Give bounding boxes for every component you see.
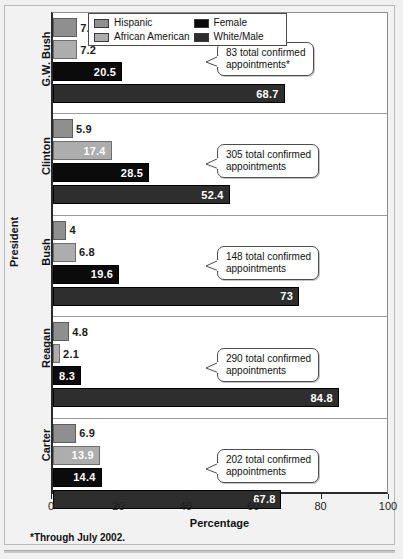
bar-value-label: 28.5 xyxy=(121,167,148,179)
legend-swatch-female xyxy=(194,19,209,28)
legend-label-hispanic: Hispanic xyxy=(114,18,152,28)
bar-african-american[interactable]: 13.9 xyxy=(53,446,100,465)
y-axis-category-g-w-bush: G.W. Bush xyxy=(40,11,52,107)
callout-line-2: appointments xyxy=(226,365,311,377)
legend-item-white-male: White/Male xyxy=(194,31,281,43)
x-axis-tick xyxy=(51,494,52,499)
bar-value-label: 14.4 xyxy=(73,471,100,483)
bar-hispanic[interactable]: 5.9 xyxy=(53,119,73,138)
bar-african-american[interactable]: 2.1 xyxy=(53,344,60,363)
legend-label-female: Female xyxy=(214,18,247,28)
bar-white-male[interactable]: 84.8 xyxy=(53,388,339,407)
bar-value-label: 68.7 xyxy=(256,88,283,100)
bar-female[interactable]: 19.6 xyxy=(53,265,119,284)
x-axis-tick-label: 80 xyxy=(314,500,326,512)
figure-bottom-rule xyxy=(4,550,395,553)
bar-row: 5.9 xyxy=(53,119,387,138)
legend-swatch-african-american xyxy=(94,33,109,42)
bar-african-american[interactable]: 6.8 xyxy=(53,243,76,262)
bar-female[interactable]: 14.4 xyxy=(53,468,102,487)
callout-line-1: 202 total confirmed xyxy=(226,454,311,466)
legend-swatch-white-male xyxy=(194,33,209,42)
callout-line-1: 148 total confirmed xyxy=(226,251,311,263)
bar-value-label: 6.8 xyxy=(75,246,95,258)
bar-female[interactable]: 20.5 xyxy=(53,62,122,81)
bar-row: 68.7 xyxy=(53,84,387,103)
x-axis-tick-label: 40 xyxy=(180,500,192,512)
bar-white-male[interactable]: 68.7 xyxy=(53,84,285,103)
x-axis-tick-label: 0 xyxy=(48,500,54,512)
y-axis-category-reagan: Reagan xyxy=(40,300,52,396)
callout-reagan: 290 total confirmedappointments xyxy=(217,348,319,382)
x-axis-tick-label: 60 xyxy=(247,500,259,512)
callout-line-1: 305 total confirmed xyxy=(226,149,311,161)
callout-clinton: 305 total confirmedappointments xyxy=(217,144,319,178)
bar-row: 84.8 xyxy=(53,388,387,407)
legend-item-female: Female xyxy=(194,17,281,29)
callout-line-2: appointments xyxy=(226,161,311,173)
bar-african-american[interactable]: 17.4 xyxy=(53,141,112,160)
bar-value-label: 84.8 xyxy=(311,392,338,404)
callout-line-1: 83 total confirmed xyxy=(226,47,306,59)
y-axis-category-clinton: Clinton xyxy=(40,108,52,204)
x-axis-tick xyxy=(253,494,254,499)
plot-area: 7.27.220.568.783 total confirmedappointm… xyxy=(51,12,388,494)
bar-row: 4 xyxy=(53,221,387,240)
x-axis-tick xyxy=(388,494,389,499)
legend-item-african-american: African American xyxy=(94,31,190,43)
y-axis-title: President xyxy=(8,197,20,287)
bar-value-label: 5.9 xyxy=(72,123,92,135)
chart-footnote: *Through July 2002. xyxy=(30,532,125,543)
bar-female[interactable]: 28.5 xyxy=(53,163,149,182)
callout-line-2: appointments* xyxy=(226,59,306,71)
callout-line-2: appointments xyxy=(226,466,311,478)
bar-value-label: 73 xyxy=(280,290,298,302)
bar-hispanic[interactable]: 4 xyxy=(53,221,66,240)
bar-row: 52.4 xyxy=(53,185,387,204)
bar-hispanic[interactable]: 6.9 xyxy=(53,424,76,443)
x-axis-tick xyxy=(186,494,187,499)
legend-label-white-male: White/Male xyxy=(214,32,264,42)
bar-white-male[interactable]: 52.4 xyxy=(53,185,230,204)
x-axis-tick-label: 20 xyxy=(112,500,124,512)
x-axis-tick xyxy=(118,494,119,499)
bar-value-label: 6.9 xyxy=(75,427,95,439)
callout-pointer-icon xyxy=(205,258,219,272)
x-axis-tick-label: 100 xyxy=(379,500,397,512)
callout-pointer-icon xyxy=(205,360,219,374)
bar-value-label: 17.4 xyxy=(83,145,110,157)
y-axis-category-bush: Bush xyxy=(40,204,52,300)
callout-line-2: appointments xyxy=(226,263,311,275)
bar-row: 4.8 xyxy=(53,322,387,341)
legend-swatch-hispanic xyxy=(94,19,109,28)
callout-pointer-icon xyxy=(205,461,219,475)
bar-row: 73 xyxy=(53,287,387,306)
callout-pointer-icon xyxy=(205,54,219,68)
callout-line-1: 290 total confirmed xyxy=(226,353,311,365)
bar-african-american[interactable]: 7.2 xyxy=(53,40,77,59)
bar-value-label: 20.5 xyxy=(94,66,121,78)
bar-value-label: 52.4 xyxy=(201,189,228,201)
bar-value-label: 4 xyxy=(65,224,75,236)
bar-group-reagan: 4.82.18.384.8290 total confirmedappointm… xyxy=(53,322,387,418)
callout-g-w-bush: 83 total confirmedappointments* xyxy=(217,42,314,76)
x-axis-tick-labels: 020406080100 xyxy=(0,500,403,514)
bar-value-label: 8.3 xyxy=(59,370,80,382)
callout-pointer-icon xyxy=(205,156,219,170)
bar-group-clinton: 5.917.428.552.4305 total confirmedappoin… xyxy=(53,119,387,215)
bar-hispanic[interactable]: 4.8 xyxy=(53,322,69,341)
bar-value-label: 13.9 xyxy=(72,449,99,461)
legend-item-hispanic: Hispanic xyxy=(94,17,190,29)
bar-white-male[interactable]: 73 xyxy=(53,287,299,306)
legend-label-african-american: African American xyxy=(114,32,190,42)
bar-female[interactable]: 8.3 xyxy=(53,366,81,385)
chart-legend: Hispanic Female African American White/M… xyxy=(88,13,287,46)
callout-bush: 148 total confirmedappointments xyxy=(217,246,319,280)
bar-hispanic[interactable]: 7.2 xyxy=(53,18,77,37)
bar-value-label: 19.6 xyxy=(91,268,118,280)
bar-group-bush: 46.819.673148 total confirmedappointment… xyxy=(53,221,387,317)
callout-carter: 202 total confirmedappointments xyxy=(217,449,319,483)
chart-figure: President 7.27.220.568.783 total confirm… xyxy=(0,0,403,559)
x-axis-tick xyxy=(321,494,322,499)
bar-value-label: 4.8 xyxy=(68,326,88,338)
